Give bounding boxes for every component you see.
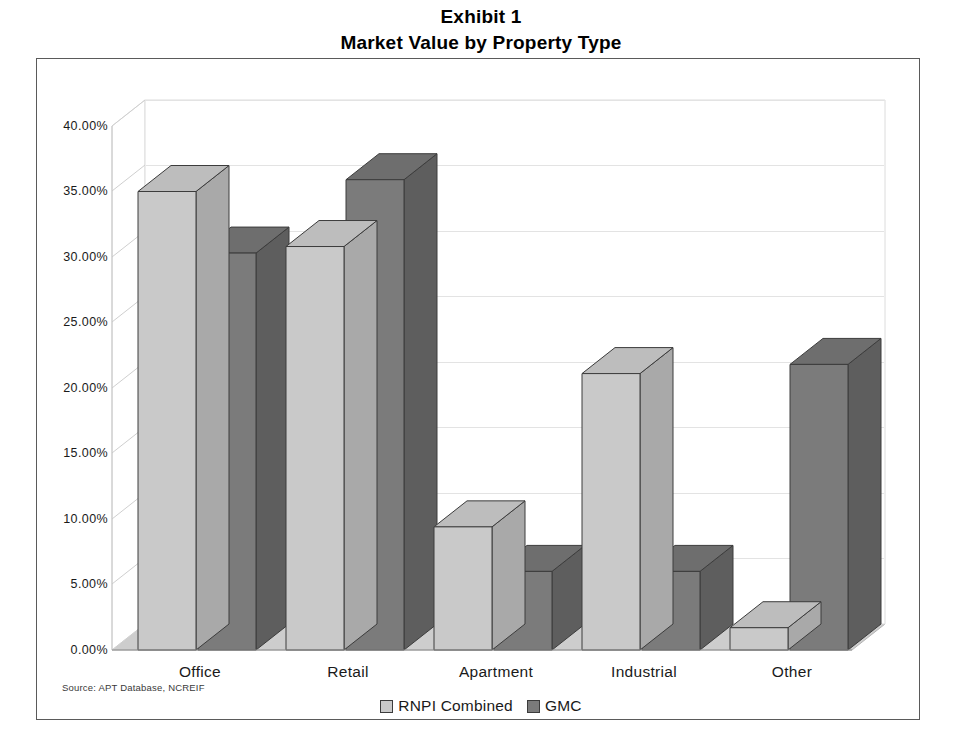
bar-office-rnpi [138, 166, 229, 651]
ytick-label-15: 15.00% [8, 446, 108, 460]
source-note: Source: APT Database, NCREIF [62, 682, 205, 693]
ytick-label-30: 30.00% [8, 250, 108, 264]
bar-industrial-gmc [642, 545, 733, 650]
legend-swatch-icon-rnpi [380, 700, 393, 713]
gridline-30 [146, 231, 884, 232]
ytick-label-20: 20.00% [8, 381, 108, 395]
bar-retail-rnpi [286, 221, 377, 650]
ytick-label-0: 0.00% [8, 643, 108, 657]
ytick-label-40: 40.00% [8, 119, 108, 133]
category-label-industrial: Industrial [584, 663, 704, 681]
gridline-40 [146, 100, 884, 101]
category-label-office: Office [140, 663, 260, 681]
bar-retail-gmc [346, 154, 437, 650]
bar-other-rnpi [730, 602, 821, 650]
category-label-other: Other [732, 663, 852, 681]
bar-apartment-gmc [494, 545, 585, 650]
gridline-15 [146, 427, 884, 428]
gridline-35 [146, 165, 884, 166]
bar-apartment-rnpi [434, 501, 525, 650]
bars-layer [0, 0, 962, 732]
legend-swatch-icon-gmc [527, 700, 540, 713]
axis-tick-connectors [0, 0, 962, 732]
plot-3d-floor [0, 0, 962, 732]
bar-other-gmc [790, 338, 881, 650]
chart-page: Exhibit 1 Market Value by Property Type [0, 0, 962, 732]
legend-item-rnpi-combined[interactable]: RNPI Combined [380, 697, 513, 715]
ytick-label-25: 25.00% [8, 315, 108, 329]
bar-office-gmc [198, 227, 289, 650]
bar-industrial-rnpi [582, 348, 673, 650]
ytick-label-35: 35.00% [8, 184, 108, 198]
gridline-5 [146, 558, 884, 559]
gridline-25 [146, 296, 884, 297]
chart-legend: RNPI Combined GMC [0, 697, 962, 715]
legend-item-gmc[interactable]: GMC [527, 697, 582, 715]
legend-label-gmc: GMC [545, 697, 582, 715]
ytick-label-10: 10.00% [8, 512, 108, 526]
plot-area: 40.00% 35.00% 30.00% 25.00% 20.00% 15.00… [0, 0, 962, 732]
gridline-20 [146, 362, 884, 363]
ytick-label-5: 5.00% [8, 577, 108, 591]
category-label-apartment: Apartment [436, 663, 556, 681]
legend-label-rnpi: RNPI Combined [398, 697, 513, 715]
category-label-retail: Retail [288, 663, 408, 681]
gridline-10 [146, 493, 884, 494]
